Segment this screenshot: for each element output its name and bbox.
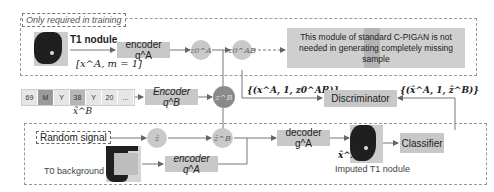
encoder-qa-bottom: encoder q^A	[165, 156, 218, 172]
t1-nodule-label: T1 nodule	[70, 34, 117, 45]
mask-cell: 38	[70, 90, 86, 105]
decoder-ga: decoder g^A	[277, 130, 330, 146]
encoder-qb-label: Encoder q^B	[145, 86, 198, 108]
mask-cell: Y	[54, 90, 70, 105]
t0-background-label: T0 background	[44, 166, 104, 176]
mask-cell: M	[38, 90, 54, 105]
not-needed-note: This module of standard C-PIGAN is not n…	[287, 28, 465, 68]
encoder-qa-bottom-label: encoder q^A	[165, 153, 218, 175]
encoder-qa-top: encoder q^A	[117, 42, 170, 58]
t0-background-image	[106, 146, 141, 182]
fake-input-label: {(x̂^A, 1, ẑ^B)}	[400, 85, 479, 95]
z-hat-b-node: ẑ^B	[212, 128, 233, 148]
training-only-label: Only required in training	[22, 13, 126, 27]
z0ab-node: z0^AB	[232, 40, 252, 60]
encoder-qb: Encoder q^B	[145, 89, 198, 105]
t1-nodule-image	[34, 32, 68, 66]
discriminator-box: Discriminator	[324, 90, 397, 107]
mask-cell: ...	[118, 90, 134, 105]
random-signal-box: Random signal	[36, 131, 111, 144]
zb-node: z^B	[213, 86, 235, 108]
classifier-box: Classifier	[400, 133, 444, 153]
z0a-node: z0^A	[191, 40, 211, 60]
mask-label: x̃^B	[73, 106, 92, 116]
mask-cell: 69	[22, 90, 38, 105]
mask-cell: Y	[86, 90, 102, 105]
mask-cell: 20	[102, 90, 118, 105]
mask-vector: 69 M Y 38 Y 20 ...	[21, 89, 135, 106]
imputed-symbol: x̂^A	[338, 150, 358, 160]
z-hat-node: ẑ	[147, 128, 167, 148]
note-text: This module of standard C-PIGAN is not n…	[293, 32, 459, 65]
imputed-label: Imputed T1 nodule	[335, 164, 410, 174]
